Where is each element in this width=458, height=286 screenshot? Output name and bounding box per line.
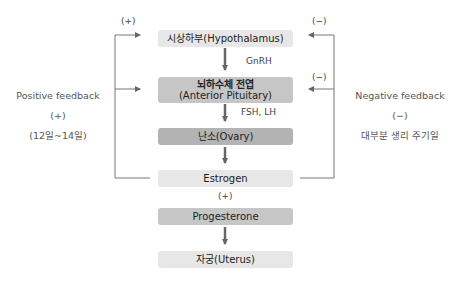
hypothalamus-label: 시상하부(Hypothalamus) — [167, 33, 283, 44]
positive-feedback-sign: (+) — [8, 106, 108, 126]
negative-feedback-loop — [300, 35, 334, 178]
estrogen-box: Estrogen — [158, 170, 293, 187]
ovary-label: 난소(Ovary) — [198, 131, 254, 142]
negative-marker-mid: (−) — [312, 72, 327, 82]
pituitary-label-english: (Anterior Pituitary) — [179, 90, 272, 101]
uterus-box: 자궁(Uterus) — [158, 251, 293, 268]
pituitary-label-korean: 뇌하수체 전엽 — [197, 79, 254, 90]
negative-feedback-period: 대부분 생리 주기일 — [350, 126, 450, 146]
hypothalamus-box: 시상하부(Hypothalamus) — [158, 30, 293, 47]
positive-feedback-title: Positive feedback — [8, 86, 108, 106]
fsh-lh-label: FSH, LH — [241, 107, 276, 117]
estrogen-label: Estrogen — [203, 173, 247, 184]
negative-feedback-text: Negative feedback (−) 대부분 생리 주기일 — [350, 86, 450, 146]
positive-feedback-period: (12일~14일) — [8, 126, 108, 146]
uterus-label: 자궁(Uterus) — [196, 254, 255, 265]
gnrh-label: GnRH — [246, 56, 272, 66]
positive-marker-top: (+) — [121, 16, 136, 26]
positive-feedback-text: Positive feedback (+) (12일~14일) — [8, 86, 108, 146]
ovary-box: 난소(Ovary) — [158, 128, 293, 145]
positive-feedback-loop — [115, 35, 150, 178]
estrogen-progesterone-sign: (+) — [218, 191, 233, 201]
progesterone-box: Progesterone — [158, 208, 293, 225]
progesterone-label: Progesterone — [192, 211, 258, 222]
negative-feedback-sign: (−) — [350, 106, 450, 126]
negative-marker-top: (−) — [312, 16, 327, 26]
anterior-pituitary-box: 뇌하수체 전엽 (Anterior Pituitary) — [158, 77, 293, 103]
negative-feedback-title: Negative feedback — [350, 86, 450, 106]
